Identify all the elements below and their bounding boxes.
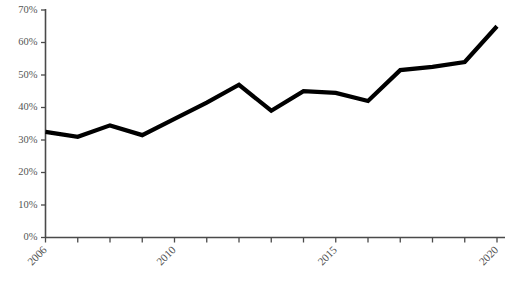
y-tick-label: 10% [18,199,38,210]
y-tick-label: 70% [18,4,38,15]
y-tick-label: 50% [18,69,38,80]
chart-canvas: 0%10%20%30%40%50%60%70% 2006201020152020 [0,0,514,283]
y-tick-label: 20% [18,166,38,177]
y-tick-label: 60% [18,36,38,47]
y-tick-label: 40% [18,101,38,112]
line-chart: 0%10%20%30%40%50%60%70% 2006201020152020 [0,0,514,283]
y-tick-label: 30% [18,134,38,145]
y-tick-label: 0% [24,231,38,242]
